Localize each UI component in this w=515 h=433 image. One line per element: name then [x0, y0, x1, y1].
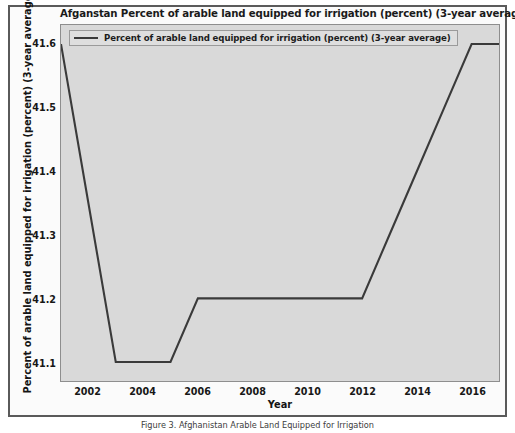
x-tick-label: 2012 [349, 386, 376, 397]
x-tick-label: 2016 [459, 386, 486, 397]
legend[interactable]: Percent of arable land equipped for irri… [69, 30, 458, 46]
plot-area: Percent of arable land equipped for irri… [60, 24, 500, 382]
x-tick-label: 2014 [404, 386, 431, 397]
x-axis-label: Year [60, 399, 500, 410]
chart-title: Afganstan Percent of arable land equippe… [60, 8, 505, 20]
x-tick-label: 2008 [239, 386, 266, 397]
legend-line-swatch [74, 37, 98, 39]
x-tick-label: 2010 [294, 386, 321, 397]
y-axis-label: Percent of arable land equipped for irri… [22, 14, 33, 394]
data-line-svg [61, 25, 499, 381]
data-line-series-0 [61, 44, 499, 362]
x-tick-label: 2006 [184, 386, 211, 397]
figure-container: Afganstan Percent of arable land equippe… [0, 0, 515, 433]
figure-caption: Figure 3. Afghanistan Arable Land Equipp… [8, 420, 507, 433]
x-tick-label: 2004 [129, 386, 156, 397]
legend-label-0: Percent of arable land equipped for irri… [104, 33, 451, 43]
x-axis-tick-labels: 20022004200620082010201220142016 [60, 386, 500, 400]
x-tick-label: 2002 [74, 386, 101, 397]
